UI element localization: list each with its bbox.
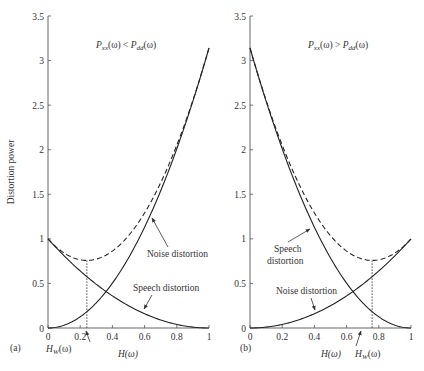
- y-tick-label: 2.5: [32, 101, 44, 111]
- y-tick-label: 2: [241, 145, 246, 155]
- distortion-chart: Distortion power 00.511.522.533.500.20.4…: [0, 0, 424, 371]
- panel-b-noise-arrow: [311, 298, 315, 310]
- panel-b-hw-label: HW(ω): [354, 349, 380, 361]
- x-tick-label: 0.4: [308, 332, 320, 342]
- total-distortion-curve: [250, 48, 411, 260]
- y-tick-label: 0: [241, 324, 246, 334]
- panel-a: 00.511.522.533.500.20.40.60.81 Pxx(ω) < …: [10, 12, 212, 361]
- x-tick-label: 0: [248, 332, 253, 342]
- x-tick-label: 0.8: [373, 332, 385, 342]
- y-tick-label: 2.5: [234, 101, 246, 111]
- y-tick-label: 0.5: [234, 279, 246, 289]
- panel-b: 00.511.522.533.500.20.40.60.81 Pxx(ω) > …: [234, 12, 414, 362]
- panel-a-speech-label: Speech distortion: [133, 283, 199, 293]
- y-tick-label: 1.5: [234, 190, 246, 200]
- y-tick-label: 1: [241, 234, 246, 244]
- panel-b-x-label: H(ω): [320, 349, 341, 360]
- panel-b-noise-label: Noise distortion: [276, 286, 337, 296]
- panel-b-speech-label-1: Speech: [274, 244, 302, 254]
- panel-b-hw-arrow: [356, 331, 361, 346]
- y-tick-label: 1.5: [32, 190, 44, 200]
- y-tick-label: 0: [39, 324, 44, 334]
- y-axis-label: Distortion power: [6, 139, 16, 204]
- total-distortion-curve: [48, 48, 209, 260]
- x-tick-label: 0.2: [276, 332, 288, 342]
- y-tick-label: 3.5: [234, 12, 246, 22]
- panel-b-tag: (b): [240, 343, 251, 354]
- x-tick-label: 0.8: [171, 332, 183, 342]
- x-tick-label: 0.6: [139, 332, 151, 342]
- panel-b-speech-arrow: [288, 229, 310, 242]
- y-tick-label: 3.5: [32, 12, 44, 22]
- y-tick-label: 3: [39, 56, 44, 66]
- panel-a-x-label: H(ω): [117, 349, 138, 360]
- panel-a-condition: Pxx(ω) < Pdd(ω): [95, 40, 156, 52]
- panel-b-condition: Pxx(ω) > Pdd(ω): [307, 40, 368, 52]
- y-tick-label: 3: [241, 56, 246, 66]
- panel-a-hw-label: HW(ω): [45, 344, 71, 356]
- x-tick-label: 0.4: [106, 332, 118, 342]
- y-tick-label: 1: [39, 234, 44, 244]
- panel-a-noise-arrow: [152, 218, 168, 247]
- y-tick-label: 2: [39, 145, 44, 155]
- y-tick-label: 0.5: [32, 279, 44, 289]
- x-tick-label: 0: [46, 332, 51, 342]
- panel-a-noise-label: Noise distortion: [147, 249, 208, 259]
- x-tick-label: 0.6: [341, 332, 353, 342]
- x-tick-label: 1: [409, 332, 414, 342]
- panel-a-speech-arrow: [144, 295, 152, 309]
- panel-a-hw-arrow: [86, 331, 90, 342]
- panel-a-tag: (a): [10, 343, 21, 354]
- x-tick-label: 0.2: [74, 332, 86, 342]
- panel-b-speech-label-2: distortion: [267, 256, 304, 266]
- x-tick-label: 1: [207, 332, 212, 342]
